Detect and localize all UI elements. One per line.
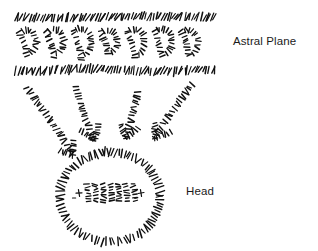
head-label: Head — [186, 184, 214, 198]
head-inner-marks — [72, 183, 143, 203]
astral-plane-wave-glyphs — [16, 26, 201, 61]
head-circle-outline — [56, 147, 165, 247]
astral-plane-label: Astral Plane — [233, 34, 296, 48]
diagram-canvas: Astral Plane Head — [0, 0, 318, 251]
descending-arrows-group — [24, 82, 195, 158]
